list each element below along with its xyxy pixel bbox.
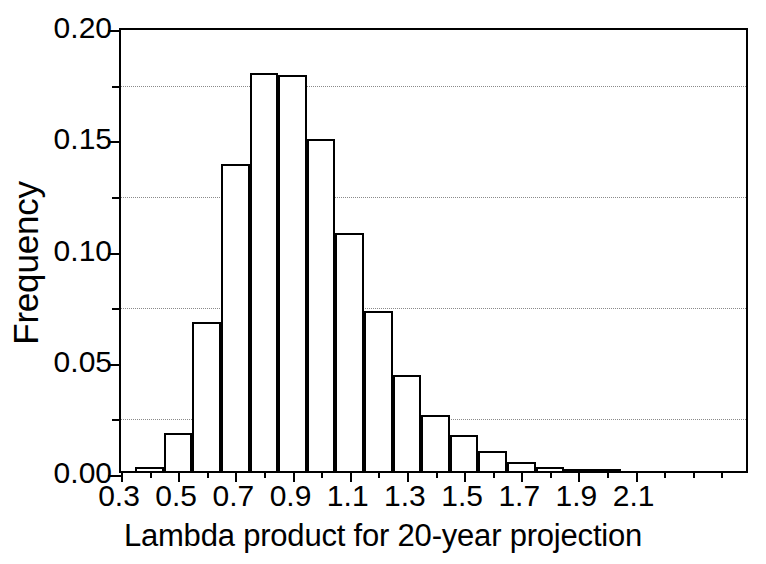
histogram-bar bbox=[593, 469, 622, 471]
histogram-figure: Frequency 0.000.050.100.150.20 0.30.50.7… bbox=[0, 0, 766, 564]
histogram-bar bbox=[507, 462, 536, 471]
histogram-bar bbox=[164, 433, 193, 471]
y-axis-minor-tick bbox=[112, 86, 121, 88]
x-axis-minor-tick bbox=[721, 471, 723, 478]
histogram-bar bbox=[250, 73, 279, 471]
histogram-bar bbox=[278, 75, 307, 471]
histogram-bar bbox=[307, 139, 336, 471]
y-axis-minor-tick bbox=[112, 197, 121, 199]
y-axis-tick-label: 0.20 bbox=[28, 13, 112, 43]
y-axis-minor-tick bbox=[112, 308, 121, 310]
x-axis-minor-tick bbox=[378, 471, 380, 478]
x-axis-minor-tick bbox=[550, 471, 552, 478]
x-axis-minor-tick bbox=[664, 471, 666, 478]
x-axis-minor-tick bbox=[264, 471, 266, 478]
histogram-bar bbox=[192, 322, 221, 471]
histogram-bar bbox=[564, 469, 593, 471]
x-axis-minor-tick bbox=[607, 471, 609, 478]
histogram-bar bbox=[335, 233, 364, 471]
y-axis-tick-label: 0.10 bbox=[28, 236, 112, 266]
y-axis-minor-tick bbox=[112, 419, 121, 421]
y-axis-tick-label: 0.15 bbox=[28, 124, 112, 154]
histogram-bar bbox=[221, 164, 250, 471]
plot-area bbox=[119, 28, 748, 473]
histogram-bar bbox=[536, 467, 565, 471]
histogram-bar bbox=[393, 375, 422, 471]
histogram-bar bbox=[421, 415, 450, 471]
x-axis-tick-labels: 0.30.50.70.91.11.31.51.71.92.1 bbox=[119, 479, 748, 519]
x-axis-title: Lambda product for 20-year projection bbox=[0, 518, 766, 554]
histogram-bar bbox=[450, 435, 479, 471]
histogram-bars bbox=[121, 30, 746, 471]
histogram-bar bbox=[478, 451, 507, 471]
x-axis-minor-tick bbox=[150, 471, 152, 478]
y-axis-tick-label: 0.05 bbox=[28, 347, 112, 377]
x-axis-minor-tick bbox=[693, 471, 695, 478]
x-axis-minor-tick bbox=[207, 471, 209, 478]
x-axis-tick-label: 2.1 bbox=[589, 479, 679, 513]
histogram-bar bbox=[135, 467, 164, 471]
x-axis-minor-tick bbox=[436, 471, 438, 478]
histogram-bar bbox=[364, 311, 393, 471]
x-axis-minor-tick bbox=[493, 471, 495, 478]
x-axis-minor-tick bbox=[321, 471, 323, 478]
